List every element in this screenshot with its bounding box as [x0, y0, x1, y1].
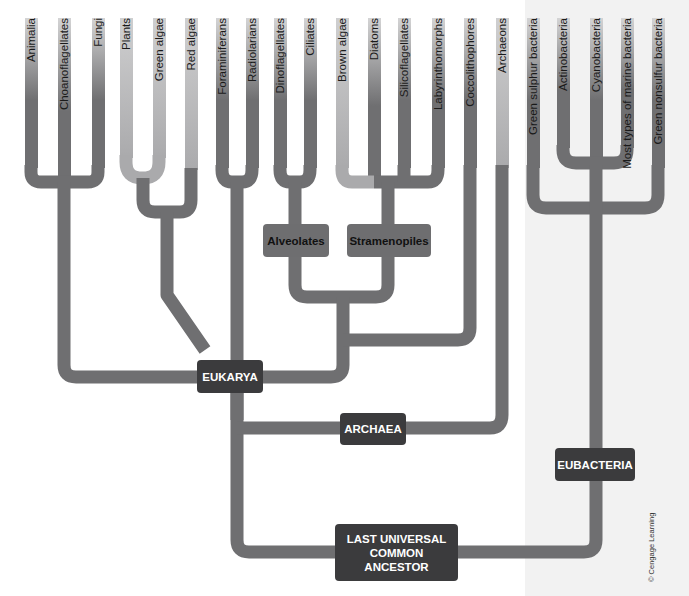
leaf-label-most-types-of-marine-bacteria: Most types of marine bacteria: [620, 18, 634, 178]
leaf-label-ciliates: Ciliates: [303, 18, 317, 158]
leaf-label-actinobacteria: Actinobacteria: [556, 18, 570, 158]
leaf-label-radiolarians: Radiolarians: [245, 18, 259, 158]
node-last-universal-common-ancestor: LAST UNIVERSAL COMMON ANCESTOR: [335, 524, 458, 581]
leaf-label-animalia: Animalia: [24, 18, 38, 158]
node-alveolates: Alveolates: [263, 224, 329, 257]
leaf-label-green-sulphur-bacteria: Green sulphur bacteria: [526, 18, 540, 158]
leaf-label-cyanobacteria: Cyanobacteria: [589, 18, 603, 158]
leaf-label-labyrinthomorphs: Labyrinthomorphs: [431, 18, 445, 158]
leaf-label-dinoflagellates: Dinoflagellates: [273, 18, 287, 158]
leaf-label-green-algae: Green algae: [152, 18, 166, 158]
leaf-label-green-nonsulfur-bacteria: Green nonsulfur bacteria: [651, 18, 665, 158]
copyright-credit: © Cengage Learning: [647, 513, 656, 582]
leaf-label-red-algae: Red algae: [184, 18, 198, 158]
leaf-label-archaeons: Archaeons: [495, 18, 509, 158]
leaf-label-foraminiferans: Foraminiferans: [215, 18, 229, 158]
leaf-label-silicoflagellates: Silicoflagellates: [397, 18, 411, 158]
leaf-label-brown-algae: Brown algae: [335, 18, 349, 158]
node-eubacteria: EUBACTERIA: [555, 448, 635, 481]
leaf-label-diatoms: Diatoms: [367, 18, 381, 158]
leaf-label-plants: Plants: [119, 18, 133, 158]
leaf-label-coccolithophores: Coccolithophores: [463, 18, 477, 158]
leaf-label-fungi: Fungi: [91, 18, 105, 158]
node-eukarya: EUKARYA: [197, 360, 263, 393]
node-stramenopiles: Stramenopiles: [347, 224, 431, 257]
node-archaea: ARCHAEA: [340, 413, 406, 445]
leaf-label-choanoflagellates: Choanoflagellates: [57, 18, 71, 158]
